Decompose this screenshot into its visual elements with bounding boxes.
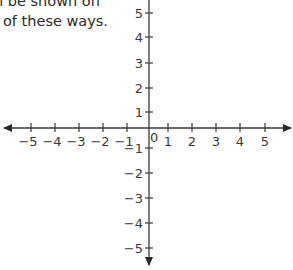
y-tick-label: 1	[135, 105, 143, 120]
y-tick-label: 4	[135, 30, 143, 45]
x-tick-label: −3	[66, 134, 85, 149]
y-tick-label: 5	[135, 6, 143, 21]
origin-label: 0	[150, 130, 158, 145]
coordinate-plane: −5−4−3−2−112345 54321−1−2−3−4−5 0	[0, 0, 293, 270]
x-tick-label: 1	[164, 134, 172, 149]
x-tick-label: 5	[261, 134, 269, 149]
y-tick-label: 3	[135, 56, 143, 71]
x-tick-label: 4	[236, 134, 244, 149]
y-tick-label: −1	[124, 141, 143, 156]
x-axis-ticks: −5−4−3−2−112345	[18, 123, 269, 149]
y-tick-label: −2	[124, 166, 143, 181]
axes	[4, 0, 291, 265]
y-tick-label: −4	[124, 216, 143, 231]
y-tick-label: −5	[124, 241, 143, 256]
x-tick-label: −5	[18, 134, 37, 149]
x-tick-label: 2	[188, 134, 196, 149]
x-tick-label: −4	[42, 134, 61, 149]
x-tick-label: 3	[212, 134, 220, 149]
y-tick-label: −3	[124, 191, 143, 206]
y-tick-label: 2	[135, 81, 143, 96]
x-tick-label: −2	[90, 134, 109, 149]
